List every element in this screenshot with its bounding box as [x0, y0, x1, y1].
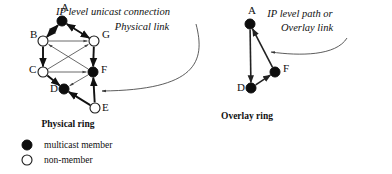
panel-physical-ring: ABGCFDE Physical ring [29, 1, 110, 129]
node-label-f: F [283, 62, 289, 74]
node-label-e: E [102, 101, 109, 113]
legend-symbols [22, 140, 32, 165]
node-d-member [246, 83, 256, 93]
annotation-physical-link: IP level unicast connection Physical lin… [55, 6, 199, 91]
legend-symbol-filled-circle-icon [22, 140, 32, 150]
edge-A-B [47, 25, 58, 37]
node-label-b: B [30, 28, 37, 40]
physical-link-annotation-line-1: IP level unicast connection [55, 6, 170, 17]
node-label-d: D [50, 82, 58, 94]
edge-D-F [256, 75, 271, 85]
node-label-f: F [101, 63, 107, 75]
physical-ring-caption: Physical ring [41, 119, 94, 129]
node-label-d: D [237, 81, 245, 93]
node-label-g: G [102, 28, 110, 40]
node-e-nonmember [90, 103, 100, 113]
node-label-c: C [29, 63, 36, 75]
physical-link-leader-arrow [102, 24, 199, 91]
physical-ring-nodes [38, 16, 100, 113]
overlay-ring-caption: Overlay ring [221, 111, 273, 121]
figure-root: ABGCFDE Physical ring AFD Overlay ring I… [0, 0, 392, 174]
node-a-member [57, 16, 67, 26]
node-label-a: A [248, 4, 256, 16]
legend-symbol-open-circle-icon [22, 155, 32, 165]
physical-ring-thin-edges [48, 41, 89, 86]
node-f-member [88, 67, 98, 77]
overlay-ring-edges [250, 29, 272, 85]
panel-overlay-ring: AFD Overlay ring [221, 4, 289, 121]
node-b-nonmember [38, 36, 48, 46]
edge-F-D [70, 75, 88, 86]
edge-E-D [69, 92, 90, 105]
legend-item-non-member-label: non-member [44, 155, 93, 165]
edge-E-F [93, 78, 94, 103]
edge-A-G [67, 24, 90, 38]
overlay-link-annotation-line-2: Overlay link [281, 22, 334, 33]
overlay-link-leader-arrow [271, 38, 347, 54]
node-d-member [59, 84, 69, 94]
legend: multicast member non-member [22, 140, 113, 165]
legend-item-multicast-member-label: multicast member [44, 140, 113, 150]
physical-link-annotation-line-2: Physical link [114, 21, 170, 32]
edge-A-D [250, 30, 251, 83]
edge-G-F [93, 47, 94, 67]
node-c-nonmember [38, 67, 48, 77]
node-g-nonmember [89, 36, 99, 46]
edge-F-A [253, 29, 273, 67]
overlay-link-annotation-line-1: IP level path or [266, 8, 333, 19]
node-f-member [270, 67, 280, 77]
diagram-canvas: ABGCFDE Physical ring AFD Overlay ring I… [0, 0, 392, 174]
node-a-member [245, 19, 255, 29]
annotation-overlay-link: IP level path or Overlay link [266, 8, 347, 54]
